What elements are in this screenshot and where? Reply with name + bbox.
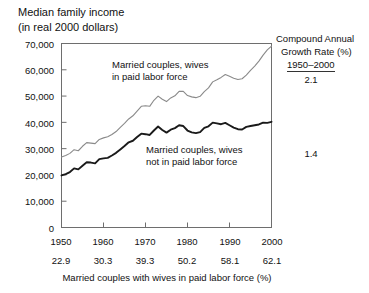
series-label-lower-line2: not in paid labor force	[146, 156, 237, 167]
x-tick-label-percent: 22.9	[41, 255, 81, 266]
x-tick-label-year: 1980	[167, 236, 207, 247]
chart-title-line2: (in real 2000 dollars)	[18, 22, 118, 33]
x-tick-label-percent: 50.2	[167, 255, 207, 266]
x-tick-label-year: 1970	[125, 236, 165, 247]
y-tick-label: 50,000	[6, 91, 54, 102]
series-label-upper-line1: Married couples, wives	[112, 59, 209, 70]
cagr-value-lower: 1.4	[287, 148, 335, 159]
chart-page: Median family income (in real 2000 dolla…	[0, 0, 369, 293]
x-axis-title: Married couples with wives in paid labor…	[33, 272, 301, 283]
y-tick-label: 60,000	[6, 65, 54, 76]
cagr-heading-line2: Growth Rate (%)	[281, 46, 352, 57]
x-tick-label-percent: 58.1	[210, 255, 250, 266]
cagr-heading-line1: Compound Annual	[276, 33, 354, 44]
cagr-period: 1950–2000	[287, 59, 335, 72]
x-tick-label-percent: 62.1	[252, 255, 292, 266]
x-tick-label-year: 1990	[210, 236, 250, 247]
cagr-value-upper: 2.1	[287, 74, 335, 85]
chart-title-line1: Median family income	[18, 7, 124, 18]
y-tick-label: 20,000	[6, 170, 54, 181]
x-tick-label-year: 1950	[41, 236, 81, 247]
x-tick-label-percent: 39.3	[125, 255, 165, 266]
y-tick-label: 40,000	[6, 118, 54, 129]
x-tick-label-year: 1960	[83, 236, 123, 247]
x-tick-label-year: 2000	[252, 236, 292, 247]
y-tick-label: 30,000	[6, 144, 54, 155]
x-tick-label-percent: 30.3	[83, 255, 123, 266]
y-tick-label: 10,000	[6, 196, 54, 207]
series-label-upper-line2: in paid labor force	[112, 71, 188, 82]
y-tick-label: 0	[6, 223, 54, 234]
series-label-lower-line1: Married couples, wives	[146, 144, 243, 155]
series-label-upper: Married couples, wivesin paid labor forc…	[112, 59, 209, 83]
y-tick-label: 70,000	[6, 39, 54, 50]
series-label-lower: Married couples, wivesnot in paid labor …	[146, 144, 243, 168]
